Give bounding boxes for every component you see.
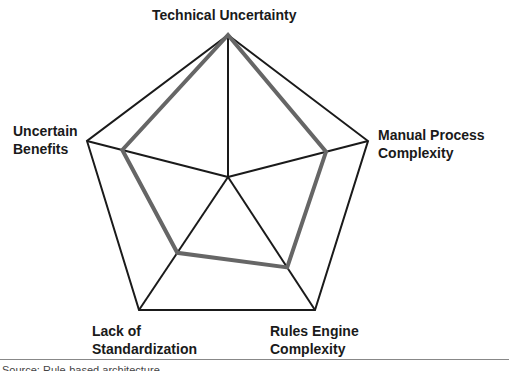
spoke-line	[139, 177, 228, 310]
axis-label-uncertain-benefits: Uncertain Benefits	[13, 122, 78, 158]
spokes	[87, 35, 368, 310]
axis-label-technical-uncertainty: Technical Uncertainty	[152, 6, 296, 24]
data-polygon	[122, 35, 326, 267]
figure-caption: Source: Rule-based architecture	[2, 364, 160, 371]
spoke-line	[87, 141, 228, 177]
spoke-line	[228, 177, 315, 310]
axis-label-lack-of-standardization: Lack of Standardization	[92, 322, 197, 358]
radar-chart	[0, 0, 509, 371]
axis-label-manual-process-complexity: Manual Process Complexity	[378, 126, 485, 162]
spoke-line	[228, 141, 368, 177]
divider-rule	[0, 359, 509, 360]
axis-label-rules-engine-complexity: Rules Engine Complexity	[270, 322, 359, 358]
